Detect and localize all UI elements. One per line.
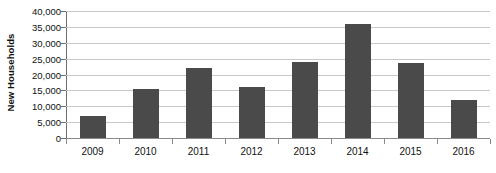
x-axis-tick-label: 2015	[384, 146, 437, 166]
y-axis-tick-label: 5,000	[37, 117, 61, 128]
y-axis-tick-mark	[61, 75, 66, 76]
x-axis-tick-label: 2010	[119, 146, 172, 166]
x-axis-tick-mark	[66, 139, 67, 144]
x-axis-tick-mark	[172, 139, 173, 144]
bar-series	[66, 11, 490, 138]
bar-slot	[119, 11, 172, 138]
x-axis-tick-mark	[119, 139, 120, 144]
x-axis-tick-label: 2016	[437, 146, 490, 166]
y-axis-tick-mark	[61, 11, 66, 12]
y-axis-title: New Households	[0, 0, 22, 145]
bar-slot	[172, 11, 225, 138]
y-axis-tick-mark	[61, 59, 66, 60]
x-axis-tick-mark	[384, 139, 385, 144]
bar-slot	[66, 11, 119, 138]
y-axis-tick-mark	[61, 27, 66, 28]
plot-area	[66, 11, 490, 138]
bar-2016	[451, 100, 477, 138]
bar-slot	[225, 11, 278, 138]
bar-2012	[239, 87, 265, 138]
bar-chart: New Households 05,00010,00015,00020,0002…	[0, 0, 496, 173]
x-axis-tick-label: 2014	[331, 146, 384, 166]
y-axis-tick-label: 35,000	[32, 21, 61, 32]
y-axis-tick-label: 40,000	[32, 6, 61, 17]
bar-2015	[398, 63, 424, 138]
y-axis-tick-mark	[61, 43, 66, 44]
bar-slot	[384, 11, 437, 138]
bar-2009	[80, 116, 106, 138]
y-axis-tick-label: 10,000	[32, 101, 61, 112]
y-axis-title-label: New Households	[6, 34, 17, 112]
bar-slot	[278, 11, 331, 138]
bar-2010	[133, 89, 159, 138]
x-axis-tick-label: 2012	[225, 146, 278, 166]
y-axis-tick-mark	[61, 122, 66, 123]
x-axis-tick-label: 2013	[278, 146, 331, 166]
y-axis-tick-label: 30,000	[32, 37, 61, 48]
y-axis-tick-mark	[61, 138, 66, 139]
x-axis-tick-mark	[225, 139, 226, 144]
y-axis-tick-label: 15,000	[32, 85, 61, 96]
y-axis-tick-label: 20,000	[32, 69, 61, 80]
x-axis-tick-mark	[278, 139, 279, 144]
y-axis-tick-mark	[61, 90, 66, 91]
bar-slot	[331, 11, 384, 138]
x-axis-tick-labels: 20092010201120122013201420152016	[66, 146, 490, 166]
bar-2013	[292, 62, 318, 138]
x-axis-tick-mark	[490, 139, 491, 144]
x-axis-tick-label: 2009	[66, 146, 119, 166]
bar-slot	[437, 11, 490, 138]
y-axis-tick-mark	[61, 106, 66, 107]
x-axis-tick-mark	[437, 139, 438, 144]
x-axis-tick-marks	[66, 139, 490, 144]
x-axis-tick-label: 2011	[172, 146, 225, 166]
bar-2011	[186, 68, 212, 138]
y-axis-tick-label: 25,000	[32, 53, 61, 64]
y-axis-tick-labels: 05,00010,00015,00020,00025,00030,00035,0…	[22, 4, 64, 145]
bar-2014	[345, 24, 371, 138]
x-axis-tick-mark	[331, 139, 332, 144]
